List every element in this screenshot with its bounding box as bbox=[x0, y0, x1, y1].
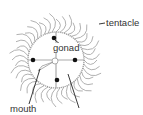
tentacle bbox=[80, 36, 93, 45]
tentacle bbox=[60, 16, 66, 32]
tentacle bbox=[17, 34, 33, 45]
tentacle bbox=[84, 60, 97, 64]
tentacle-label: tentacle bbox=[106, 18, 139, 28]
tentacle bbox=[84, 54, 100, 60]
tentacle bbox=[39, 23, 46, 35]
tentacle bbox=[11, 66, 29, 74]
tentacle bbox=[64, 15, 72, 33]
gonad-dot-right bbox=[73, 58, 78, 63]
tentacle bbox=[25, 33, 35, 42]
tentacle-leader bbox=[99, 23, 105, 24]
gonad-dot-bottom bbox=[55, 78, 60, 83]
tentacle bbox=[12, 55, 28, 60]
tentacle bbox=[83, 68, 101, 76]
tentacle bbox=[56, 19, 60, 32]
tentacle bbox=[57, 88, 63, 104]
tentacle bbox=[35, 86, 44, 103]
tentacle bbox=[80, 75, 93, 85]
tentacle bbox=[71, 23, 81, 36]
gonad-dot-left bbox=[31, 58, 36, 63]
tentacle bbox=[15, 61, 28, 66]
mouth-opening bbox=[52, 58, 58, 64]
tentacle bbox=[84, 64, 100, 70]
gonad-dot-top bbox=[52, 36, 57, 41]
gonad-label: gonad bbox=[53, 43, 79, 53]
tentacle bbox=[51, 88, 56, 107]
mouth-label: mouth bbox=[10, 104, 36, 114]
